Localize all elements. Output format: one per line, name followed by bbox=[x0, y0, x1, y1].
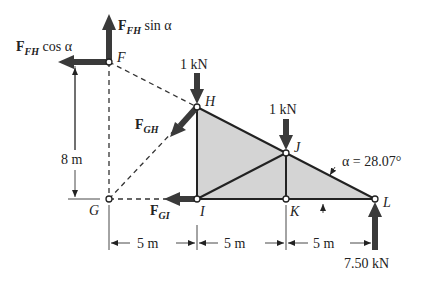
arrow-load-j bbox=[279, 119, 293, 150]
arrow-ffh-sin bbox=[102, 14, 116, 62]
node-I bbox=[194, 196, 200, 202]
label-dim-span-2: 5 m bbox=[224, 236, 246, 251]
node-H bbox=[194, 104, 200, 110]
label-node-I: I bbox=[199, 204, 206, 219]
label-node-F: F bbox=[116, 50, 126, 65]
label-load-j: 1 kN bbox=[269, 102, 297, 117]
arrow-fgi bbox=[164, 192, 197, 206]
node-G bbox=[106, 196, 112, 202]
truss-diagram: F H G I J K L FFH sin α FFH cos α FGH FG… bbox=[0, 0, 445, 295]
label-node-K: K bbox=[289, 204, 300, 219]
node-F bbox=[106, 59, 112, 65]
label-fgi: FGI bbox=[150, 203, 171, 221]
label-ffh-cos: FFH cos α bbox=[16, 39, 73, 57]
node-L bbox=[372, 196, 378, 202]
label-dim-height: 8 m bbox=[61, 152, 83, 167]
label-fgh: FGH bbox=[135, 117, 160, 135]
arrow-fgh bbox=[170, 107, 197, 137]
label-load-h: 1 kN bbox=[180, 57, 208, 72]
label-dim-span-3: 5 m bbox=[313, 236, 335, 251]
label-ffh-sin: FFH sin α bbox=[118, 18, 172, 36]
label-angle-alpha: α = 28.07° bbox=[342, 154, 401, 169]
arrow-load-h bbox=[190, 73, 204, 104]
label-dim-span-1: 5 m bbox=[137, 236, 159, 251]
arrow-ffh-cos bbox=[58, 55, 109, 69]
label-node-L: L bbox=[382, 195, 391, 210]
label-node-J: J bbox=[294, 140, 301, 155]
label-reaction-l: 7.50 kN bbox=[344, 256, 389, 271]
label-node-H: H bbox=[204, 94, 216, 109]
node-J bbox=[283, 150, 289, 156]
member-GH-dashed bbox=[109, 124, 180, 199]
node-K bbox=[283, 196, 289, 202]
label-node-G: G bbox=[89, 203, 99, 218]
